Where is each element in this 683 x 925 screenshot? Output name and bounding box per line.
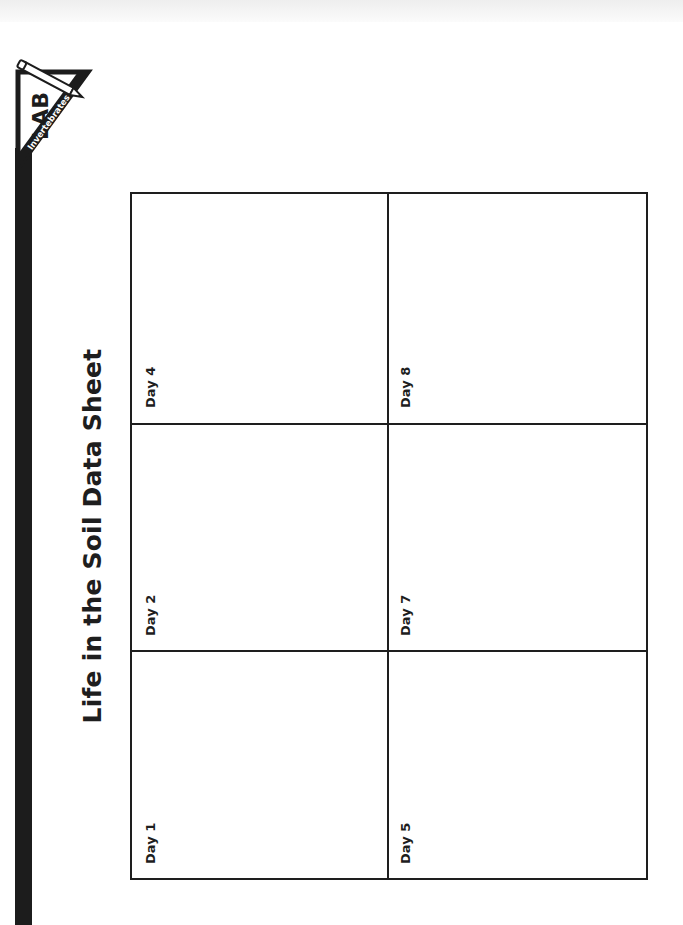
- grid-divider-vertical: [387, 192, 389, 880]
- pencil-flag-icon: LAB Invertebrates: [8, 58, 93, 170]
- cell-label-day-4: Day 4: [143, 367, 158, 408]
- page-title: Life in the Soil Data Sheet: [78, 349, 107, 724]
- scan-top-edge: [0, 0, 683, 22]
- cell-label-day-2: Day 2: [143, 595, 158, 636]
- data-grid: Day 4 Day 2 Day 1 Day 8 Day 7 Day 5: [130, 192, 648, 880]
- cell-label-day-1: Day 1: [143, 823, 158, 864]
- cell-label-day-8: Day 8: [398, 367, 413, 408]
- sidebar-bar: [15, 148, 32, 925]
- grid-divider-horizontal-1: [130, 423, 648, 425]
- lab-badge: LAB Invertebrates: [8, 58, 93, 170]
- cell-label-day-7: Day 7: [398, 595, 413, 636]
- cell-label-day-5: Day 5: [398, 823, 413, 864]
- grid-divider-horizontal-2: [130, 650, 648, 652]
